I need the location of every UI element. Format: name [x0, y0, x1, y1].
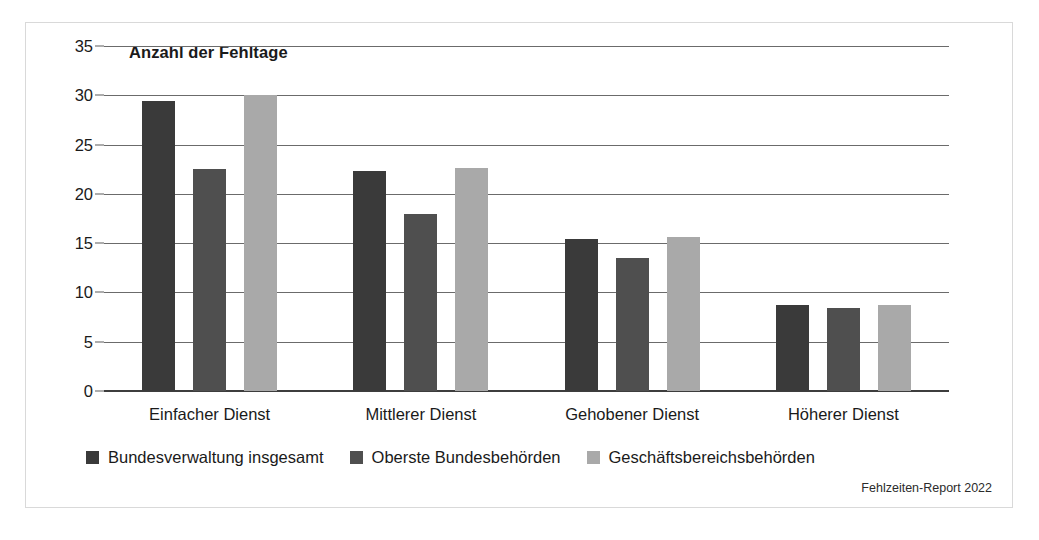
x-axis-category-label: Höherer Dienst	[788, 405, 899, 424]
bar	[244, 95, 277, 391]
y-tick-mark	[95, 144, 104, 145]
legend-item: Geschäftsbereichsbehörden	[587, 448, 815, 467]
legend-swatch-icon	[86, 451, 99, 464]
y-tick-mark	[95, 292, 104, 293]
y-tick-mark	[95, 341, 104, 342]
x-axis-category-label: Gehobener Dienst	[565, 405, 699, 424]
bar	[565, 239, 598, 391]
bar	[404, 214, 437, 391]
y-tick-label: 30	[75, 87, 93, 104]
y-tick-label: 25	[75, 136, 93, 153]
bar	[193, 169, 226, 391]
legend-label: Oberste Bundesbehörden	[372, 448, 561, 467]
x-axis-category-label: Mittlerer Dienst	[365, 405, 476, 424]
y-tick-mark	[95, 243, 104, 244]
figure-frame: Anzahl der Fehltage 05101520253035 Einfa…	[25, 22, 1013, 508]
y-tick-label: 20	[75, 186, 93, 203]
chart-legend: Bundesverwaltung insgesamtOberste Bundes…	[86, 448, 815, 467]
legend-label: Geschäftsbereichsbehörden	[609, 448, 815, 467]
y-tick-label: 5	[84, 333, 93, 350]
y-tick-mark	[95, 46, 104, 47]
bar	[827, 308, 860, 391]
y-tick-label: 15	[75, 235, 93, 252]
y-tick-mark	[95, 193, 104, 194]
y-tick-label: 35	[75, 38, 93, 55]
bars-layer	[104, 46, 949, 391]
bar	[776, 305, 809, 391]
bar	[878, 305, 911, 391]
source-note: Fehlzeiten-Report 2022	[861, 481, 992, 495]
y-tick-mark	[95, 391, 104, 392]
bar	[353, 171, 386, 391]
bar	[455, 168, 488, 391]
y-tick-label: 10	[75, 284, 93, 301]
bar	[667, 237, 700, 391]
legend-swatch-icon	[587, 451, 600, 464]
legend-item: Bundesverwaltung insgesamt	[86, 448, 324, 467]
legend-swatch-icon	[350, 451, 363, 464]
bar	[616, 258, 649, 391]
x-axis-category-label: Einfacher Dienst	[149, 405, 270, 424]
plot-area: 05101520253035 Einfacher DienstMittlerer…	[104, 46, 949, 391]
y-tick-mark	[95, 95, 104, 96]
legend-label: Bundesverwaltung insgesamt	[108, 448, 324, 467]
y-tick-label: 0	[84, 383, 93, 400]
bar	[142, 101, 175, 391]
legend-item: Oberste Bundesbehörden	[350, 448, 561, 467]
